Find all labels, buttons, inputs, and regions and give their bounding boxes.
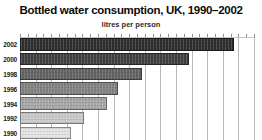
chart-subtitle: litres per person [0, 20, 262, 29]
bar-row: 2000 [0, 52, 262, 67]
bar [20, 97, 107, 110]
bar-row: 1994 [0, 96, 262, 111]
bar [20, 68, 142, 81]
y-axis-label: 2000 [0, 56, 17, 63]
y-axis-label: 1998 [0, 70, 17, 77]
chart-title: Bottled water consumption, UK, 1990–2002 [0, 4, 262, 16]
bar [20, 127, 71, 140]
bar-row: 1996 [0, 81, 262, 96]
bar-rows: 2002200019981996199419921990 [0, 37, 262, 140]
bar-row: 1992 [0, 111, 262, 126]
bar [20, 38, 234, 51]
bar [20, 53, 189, 66]
bar-row: 2002 [0, 37, 262, 52]
y-axis-label: 1994 [0, 100, 17, 107]
y-axis-label: 1996 [0, 85, 17, 92]
y-axis-label: 2002 [0, 41, 17, 48]
bar-row: 1998 [0, 67, 262, 82]
y-axis-label: 1992 [0, 115, 17, 122]
y-axis-label: 1990 [0, 130, 17, 137]
bar [20, 112, 84, 125]
bar [20, 82, 118, 95]
bar-chart-figure: Bottled water consumption, UK, 1990–2002… [0, 0, 262, 140]
plot-area: 2002200019981996199419921990 [0, 33, 262, 140]
bar-row: 1990 [0, 126, 262, 140]
